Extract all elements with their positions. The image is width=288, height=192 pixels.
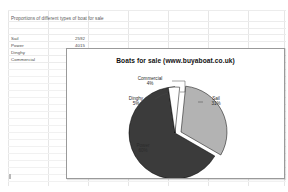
pie-label-dinghy-pct: 5% — [133, 101, 140, 106]
pie-label-dinghy-name: Dinghy — [129, 96, 143, 101]
pie-plot-area: Commercial 4% Dinghy 5% Sail 31% Power 6… — [67, 49, 284, 178]
row-divider — [8, 21, 286, 22]
pie-label-power-name: Power — [136, 143, 149, 148]
data-label-cell-dinghy[interactable]: Dinghy — [11, 50, 25, 55]
embedded-pie-chart[interactable]: Boats for sale (www.buyaboat.co.uk) Comm… — [66, 48, 285, 179]
pie-label-commercial: Commercial 4% — [127, 76, 173, 87]
pie-label-sail-name: Sail — [212, 96, 220, 101]
pie-label-dinghy: Dinghy 5% — [119, 96, 153, 107]
pie-label-power: Power 60% — [123, 143, 163, 154]
pie-label-sail: Sail 31% — [199, 96, 233, 107]
data-label-cell-power[interactable]: Power — [11, 43, 24, 48]
row-divider — [8, 28, 286, 29]
row-header-marker — [9, 174, 11, 179]
pie-label-commercial-name: Commercial — [138, 76, 163, 81]
row-divider — [8, 34, 286, 35]
row-divider — [8, 41, 286, 42]
sheet-title-cell[interactable]: Proportions of different types of boat f… — [11, 16, 104, 21]
pie-label-power-pct: 60% — [138, 148, 147, 153]
row-divider — [8, 10, 286, 11]
pie-label-commercial-pct: 4% — [147, 81, 154, 86]
pie-svg — [67, 49, 284, 178]
data-label-cell-sail[interactable]: Sail — [11, 36, 19, 41]
data-value-cell-power[interactable]: 4015 — [52, 43, 85, 48]
row-divider — [8, 181, 286, 182]
data-label-cell-commercial[interactable]: Commercial — [11, 57, 35, 62]
pie-label-sail-pct: 31% — [211, 101, 220, 106]
data-value-cell-sail[interactable]: 2592 — [52, 36, 85, 41]
